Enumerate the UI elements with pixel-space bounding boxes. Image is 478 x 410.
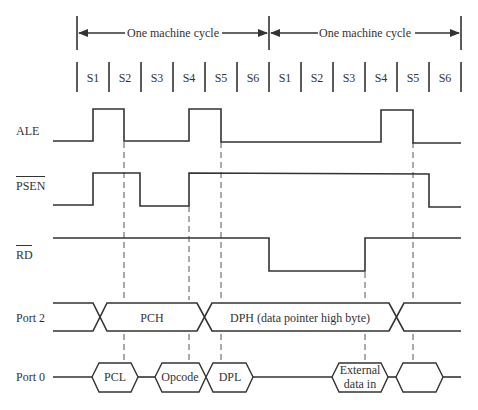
ale-waveform (53, 109, 461, 143)
timing-diagram: One machine cycle One machine cycle S1 S… (0, 0, 478, 410)
signal-label-rd: RD (16, 248, 33, 262)
cycle-label-1: One machine cycle (127, 26, 219, 40)
state-label: S5 (215, 71, 228, 85)
state-label: S2 (311, 71, 324, 85)
state-label: S3 (151, 71, 164, 85)
state-label: S5 (407, 71, 420, 85)
port2-pch-label: PCH (140, 311, 164, 325)
state-label: S4 (183, 71, 196, 85)
signal-label-ale: ALE (16, 124, 39, 138)
state-label: S1 (279, 71, 292, 85)
port0-ext-label-2: data in (344, 377, 376, 391)
signal-label-psen: PSEN (16, 179, 46, 193)
port0-pcl-label: PCL (104, 370, 126, 384)
psen-waveform (53, 173, 461, 207)
port0-dpl-label: DPL (219, 370, 242, 384)
signal-label-port2: Port 2 (16, 311, 45, 325)
state-label: S3 (343, 71, 356, 85)
state-label: S1 (87, 71, 100, 85)
port0-empty-segment (396, 363, 443, 392)
state-label: S2 (119, 71, 132, 85)
port0-bus: PCL Opcode DPL External data in (53, 363, 461, 392)
port2-bus: PCH DPH (data pointer high byte) (53, 303, 461, 331)
state-label: S6 (439, 71, 452, 85)
port0-ext-label-1: External (340, 363, 381, 377)
state-label: S4 (375, 71, 388, 85)
state-label: S6 (247, 71, 260, 85)
port0-opcode-label: Opcode (161, 370, 198, 384)
cycle-label-2: One machine cycle (319, 26, 411, 40)
port2-dph-label: DPH (data pointer high byte) (230, 311, 370, 325)
state-ticks (77, 62, 461, 92)
signal-label-port0: Port 0 (16, 370, 45, 384)
rd-waveform (53, 238, 461, 271)
machine-cycle-header: One machine cycle One machine cycle (77, 16, 461, 50)
